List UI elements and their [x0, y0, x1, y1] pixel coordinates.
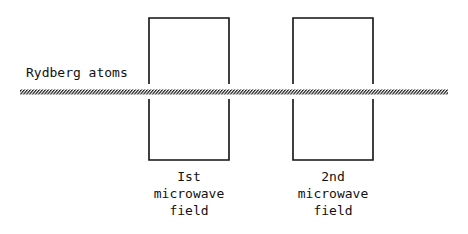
first-field-label-line: microwave — [139, 185, 239, 202]
rydberg-atom-beam — [20, 90, 448, 95]
second-field-label: 2nd microwave field — [283, 168, 383, 219]
second-microwave-cavity — [293, 18, 373, 160]
first-field-label: Ist microwave field — [139, 168, 239, 219]
diagram-canvas: Rydberg atoms Ist microwave field 2nd mi… — [0, 0, 468, 234]
first-field-label-line: field — [139, 202, 239, 219]
second-field-label-line: microwave — [283, 185, 383, 202]
second-field-label-line: field — [283, 202, 383, 219]
first-microwave-cavity — [149, 18, 229, 160]
second-field-label-line: 2nd — [283, 168, 383, 185]
first-field-label-line: Ist — [139, 168, 239, 185]
beam-label: Rydberg atoms — [26, 64, 128, 81]
